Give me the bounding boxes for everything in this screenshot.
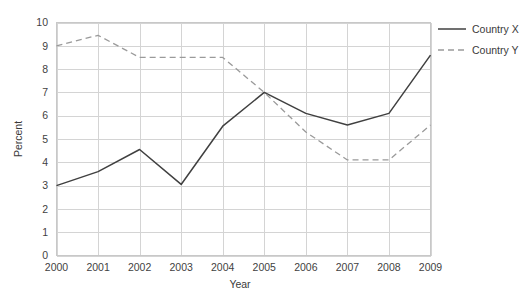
line-chart: 012345678910 200020012002200320042005200… xyxy=(0,0,520,303)
y-tick-label: 5 xyxy=(42,133,48,145)
y-tick-label: 1 xyxy=(42,226,48,238)
legend-label-country-y: Country Y xyxy=(472,44,519,56)
legend-label-country-x: Country X xyxy=(472,23,519,35)
y-tick-label: 8 xyxy=(42,63,48,75)
chart-background xyxy=(0,0,520,303)
x-tick-label: 2002 xyxy=(128,261,152,273)
y-tick-label: 2 xyxy=(42,203,48,215)
y-tick-label: 7 xyxy=(42,86,48,98)
x-tick-label: 2000 xyxy=(45,261,69,273)
y-tick-label: 6 xyxy=(42,109,48,121)
chart-canvas: 012345678910 200020012002200320042005200… xyxy=(0,0,520,303)
x-tick-label: 2004 xyxy=(211,261,235,273)
x-tick-label: 2007 xyxy=(336,261,360,273)
y-tick-label: 10 xyxy=(36,16,48,28)
y-tick-label: 4 xyxy=(42,156,48,168)
y-tick-label: 3 xyxy=(42,179,48,191)
x-axis-title: Year xyxy=(229,278,251,290)
x-tick-label: 2006 xyxy=(294,261,318,273)
x-tick-label: 2001 xyxy=(86,261,110,273)
x-tick-label: 2008 xyxy=(377,261,401,273)
y-axis-title: Percent xyxy=(12,121,24,157)
y-tick-label: 0 xyxy=(42,249,48,261)
x-tick-label: 2009 xyxy=(419,261,443,273)
x-tick-label: 2003 xyxy=(169,261,193,273)
y-tick-label: 9 xyxy=(42,40,48,52)
x-tick-label: 2005 xyxy=(253,261,277,273)
